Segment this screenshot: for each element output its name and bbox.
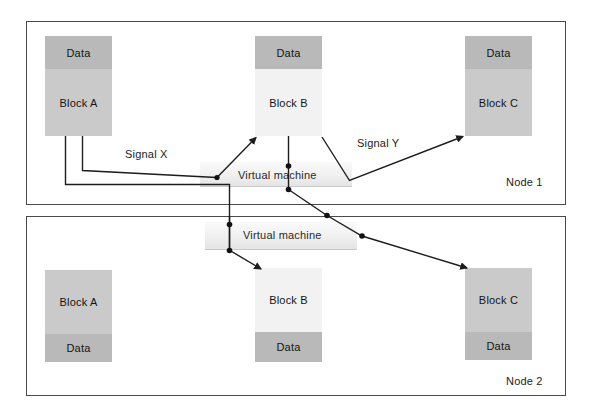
node-2-block-c-data-label: Data [465, 332, 532, 360]
node-2-block-c: Block C Data [465, 268, 532, 362]
node-2-block-b-data-label: Data [255, 332, 322, 362]
node-1-block-a: Data Block A [45, 36, 112, 136]
node-2-block-b: Block B Data [255, 268, 322, 362]
node-1-block-b-data-label: Data [255, 36, 322, 69]
node-1-label: Node 1 [506, 176, 543, 188]
node-1-block-c: Data Block C [465, 36, 532, 136]
node-1-virtual-machine-label: Virtual machine [238, 169, 317, 181]
node-1-block-a-name: Block A [45, 69, 112, 136]
node-1-block-c-data-label: Data [465, 36, 532, 69]
node-2-block-a-name: Block A [45, 270, 112, 334]
node-2-virtual-machine-label: Virtual machine [243, 229, 322, 241]
diagram-canvas: Data Block A Data Block B Data Block C V… [0, 0, 595, 414]
node-2-block-a-data-label: Data [45, 334, 112, 362]
node-1-block-b: Data Block B [255, 36, 322, 136]
node-1-block-b-name: Block B [255, 69, 322, 136]
node-2-block-c-name: Block C [465, 268, 532, 332]
node-2-label: Node 2 [506, 375, 543, 387]
signal-x-label: Signal X [125, 148, 168, 160]
signal-y-label: Signal Y [357, 137, 399, 149]
node-1-block-a-data-label: Data [45, 36, 112, 69]
node-1-block-c-name: Block C [465, 69, 532, 136]
node-2-block-a: Block A Data [45, 270, 112, 362]
node-2-block-b-name: Block B [255, 268, 322, 332]
